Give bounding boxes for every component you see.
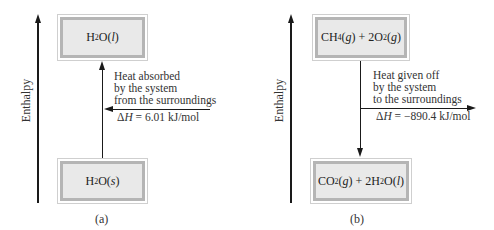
axis-arrowhead-icon — [288, 14, 294, 23]
axis-arrowhead-icon — [35, 14, 41, 23]
heat-arrow-b — [360, 108, 468, 110]
state-label-products: CO2(g) + 2H2O(l) — [313, 161, 409, 201]
caption-a: (a) — [95, 212, 108, 227]
heat-note-line-2-b: by the system — [373, 82, 436, 94]
state-box-top-a: H2O(l) — [57, 14, 148, 61]
state-box-top-b: CH4(g) + 2O2(g) — [312, 14, 410, 61]
heat-note-line-1-a: Heat absorbed — [114, 71, 180, 83]
axis-label-a: Enthalpy — [19, 76, 34, 126]
delta-h-a: ΔH = 6.01 kJ/mol — [117, 111, 199, 123]
process-arrow-a — [102, 68, 104, 158]
state-box-bottom-a: H2O(s) — [57, 158, 148, 204]
state-box-bottom-b: CO2(g) + 2H2O(l) — [310, 158, 412, 204]
state-label-h2o-liquid: H2O(l) — [60, 17, 145, 58]
state-label-h2o-solid: H2O(s) — [60, 161, 145, 201]
heat-note-line-3-a: from the surroundings — [114, 95, 216, 107]
arrow-up-icon — [99, 61, 105, 70]
enthalpy-axis-a — [37, 20, 39, 203]
heat-note-line-2-a: by the system — [114, 83, 177, 95]
caption-b: (b) — [350, 212, 364, 227]
heat-note-line-1-b: Heat given off — [373, 70, 439, 82]
heat-arrow-a — [110, 109, 210, 111]
delta-h-b: ΔH = −890.4 kJ/mol — [376, 110, 471, 122]
state-label-reactants: CH4(g) + 2O2(g) — [315, 17, 407, 58]
enthalpy-axis-b — [290, 20, 292, 203]
axis-label-b: Enthalpy — [272, 76, 287, 126]
process-arrow-b — [360, 61, 362, 149]
arrow-down-icon — [357, 148, 363, 157]
arrow-left-icon — [104, 106, 113, 112]
heat-note-line-3-b: to the surroundings — [373, 94, 462, 106]
